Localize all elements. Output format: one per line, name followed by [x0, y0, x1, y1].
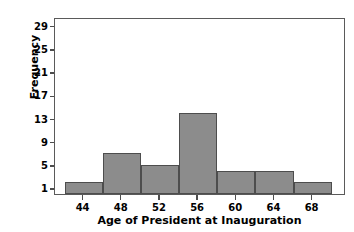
x-tick-mark	[120, 195, 121, 200]
histogram-bar	[103, 153, 141, 194]
x-tick-label: 48	[106, 201, 136, 214]
histogram-bar	[179, 113, 217, 194]
y-tick-label: 5	[22, 160, 48, 172]
x-tick-label: 64	[258, 201, 288, 214]
x-tick-mark	[273, 195, 274, 200]
x-tick-label: 68	[297, 201, 327, 214]
histogram-bar	[217, 171, 255, 194]
bars-layer	[55, 19, 344, 194]
y-tick-label: 13	[22, 114, 48, 126]
x-axis-title: Age of President at Inauguration	[54, 214, 345, 228]
histogram-chart: Frequency 1591317212529 44485256606468 A…	[0, 0, 354, 232]
histogram-bar	[65, 182, 103, 194]
x-tick-label: 56	[182, 201, 212, 214]
y-tick-label: 29	[22, 21, 48, 33]
x-tick-mark	[158, 195, 159, 200]
x-tick-mark	[235, 195, 236, 200]
x-tick-label: 60	[220, 201, 250, 214]
x-tick-label: 44	[68, 201, 98, 214]
histogram-bar	[294, 182, 332, 194]
y-tick-label: 9	[22, 137, 48, 149]
x-tick-mark	[82, 195, 83, 200]
y-tick-label: 25	[22, 44, 48, 56]
x-tick-label: 52	[144, 201, 174, 214]
y-tick-label: 21	[22, 67, 48, 79]
y-tick-label: 17	[22, 90, 48, 102]
histogram-bar	[141, 165, 179, 194]
x-tick-mark	[311, 195, 312, 200]
y-tick-label: 1	[22, 183, 48, 195]
histogram-bar	[255, 171, 293, 194]
x-tick-mark	[196, 195, 197, 200]
plot-area	[54, 18, 345, 195]
